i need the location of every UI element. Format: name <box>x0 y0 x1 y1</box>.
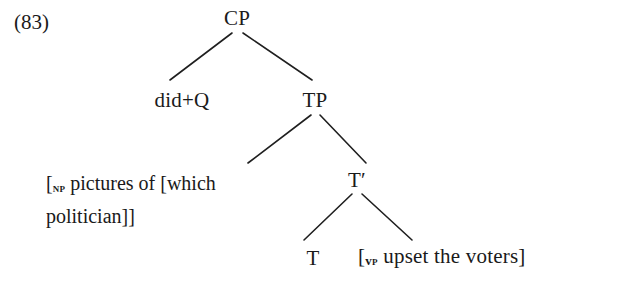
node-np-phrase: [NP pictures of [which politician]] <box>46 168 261 231</box>
example-number: (83) <box>14 12 49 33</box>
branch-tbar-to-vp <box>362 194 412 240</box>
np-phrase-line-two: politician]] <box>46 205 135 227</box>
node-did-plus-q: did+Q <box>155 90 210 111</box>
branch-tp-to-np <box>248 115 311 163</box>
syntax-tree-figure: (83) CP did+Q TP [NP pictures of [which … <box>0 0 622 284</box>
t-bar-prime-mark: ′ <box>361 168 366 192</box>
node-cp: CP <box>224 8 250 29</box>
branch-cp-to-did-q <box>170 33 232 80</box>
vp-subscript-v: v <box>365 253 372 268</box>
vp-phrase-text: upset the voters] <box>378 244 526 268</box>
vp-subscript-label: vP <box>365 253 378 268</box>
np-subscript-label: NP <box>53 180 66 195</box>
np-phrase-line-one: pictures of [which <box>65 172 216 194</box>
t-bar-letter: T <box>348 168 361 192</box>
branch-tbar-to-t <box>304 194 352 240</box>
tree-branch-lines <box>0 0 622 284</box>
node-vp-phrase: [vP upset the voters] <box>358 246 525 267</box>
node-t-bar: T′ <box>348 170 366 191</box>
vp-subscript-p: P <box>372 253 378 268</box>
np-open-bracket: [ <box>46 172 53 194</box>
node-t: T <box>306 248 319 269</box>
branch-tp-to-tbar <box>320 115 366 163</box>
branch-cp-to-tp <box>243 33 312 80</box>
node-tp: TP <box>303 90 328 111</box>
